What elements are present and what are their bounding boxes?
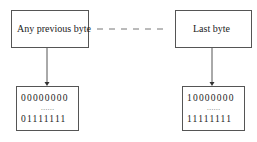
any-previous-byte-label: Any previous byte bbox=[17, 23, 91, 34]
left-range-ellipsis: ...... bbox=[41, 104, 55, 112]
right-range-end: 11111111 bbox=[187, 114, 232, 124]
last-byte-label: Last byte bbox=[193, 23, 230, 34]
right-range-box: 10000000 ...... 11111111 bbox=[182, 86, 245, 131]
right-range-ellipsis: ...... bbox=[207, 104, 221, 112]
left-range-start: 00000000 bbox=[21, 93, 69, 103]
right-range-start: 10000000 bbox=[187, 93, 235, 103]
left-range-end: 01111111 bbox=[21, 114, 67, 124]
any-previous-byte-box: Any previous byte bbox=[11, 10, 89, 48]
left-range-box: 00000000 ...... 01111111 bbox=[16, 86, 79, 131]
last-byte-box: Last byte bbox=[175, 10, 252, 48]
